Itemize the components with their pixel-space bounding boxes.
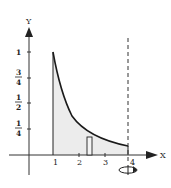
y-tick-1: 1 — [16, 48, 21, 57]
svg-text:4: 4 — [16, 78, 21, 87]
x-axis-arrow-icon — [146, 151, 158, 159]
y-tick-1-2: 1 2 — [15, 93, 22, 112]
svg-text:1: 1 — [16, 93, 21, 102]
x-tick-2: 2 — [77, 158, 82, 167]
svg-text:3: 3 — [16, 68, 21, 77]
y-axis-arrow-icon — [25, 27, 33, 37]
svg-text:1: 1 — [16, 119, 21, 128]
svg-text:2: 2 — [16, 103, 21, 112]
y-tick-1-4: 1 4 — [15, 119, 22, 138]
x-tick-3: 3 — [103, 158, 108, 167]
svg-text:4: 4 — [16, 129, 21, 138]
y-tick-3-4: 3 4 — [15, 68, 22, 87]
y-axis-label: Y — [25, 17, 32, 26]
x-tick-1: 1 — [53, 158, 58, 167]
diagram-canvas: Y X 1 2 3 4 1 3 4 1 2 1 4 — [0, 0, 171, 188]
x-tick-4: 4 — [130, 158, 135, 167]
x-axis-label: X — [160, 151, 166, 160]
representative-shell — [87, 137, 92, 155]
